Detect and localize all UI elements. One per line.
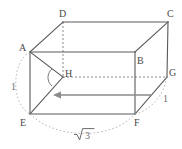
measure-label-left-height: 1 <box>11 82 16 92</box>
vertex-label-A: A <box>19 43 26 53</box>
angle-at-H-icon <box>48 69 52 86</box>
measure-arcs-group <box>16 52 167 134</box>
vertex-label-D: D <box>59 9 66 19</box>
vertex-label-F: F <box>134 118 140 128</box>
arc-left-height <box>16 52 30 114</box>
vertex-label-C: C <box>167 9 174 19</box>
diagonal-AH <box>30 52 63 77</box>
direction-arrow-head-icon <box>53 92 61 99</box>
diagonal-group <box>30 52 63 114</box>
sqrt-glyph-icon: 3 <box>74 127 96 141</box>
geometry-figure: A B C D E F G H 1 1 3 <box>0 0 182 149</box>
edge-BC <box>135 22 168 52</box>
hidden-edges-group <box>63 22 167 77</box>
vertex-label-B: B <box>137 56 144 66</box>
edge-CG <box>167 22 168 77</box>
vertex-label-H: H <box>65 69 72 79</box>
measure-label-bottom-width: 3 <box>74 127 96 143</box>
edge-AD <box>30 22 63 52</box>
vertex-label-G: G <box>169 68 176 78</box>
direction-arrow <box>53 92 152 99</box>
measure-label-right-depth: 1 <box>163 94 168 104</box>
vertex-label-E: E <box>20 118 26 128</box>
sqrt-radicand: 3 <box>85 130 90 141</box>
